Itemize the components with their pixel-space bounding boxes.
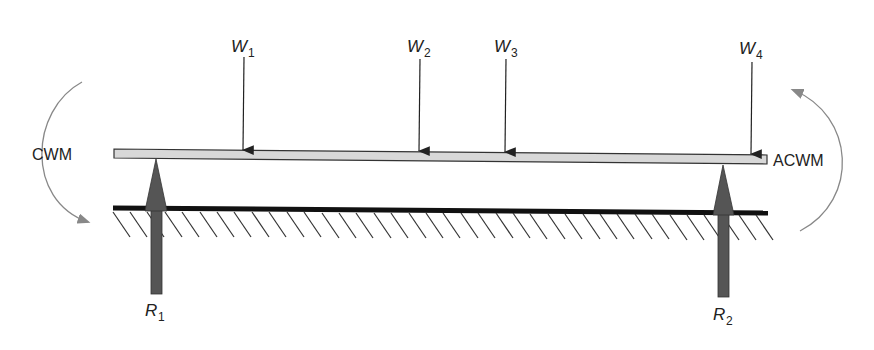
load-w1-label: W 1	[231, 37, 255, 60]
ground-support	[113, 208, 773, 240]
reaction-r1-label: R 1	[145, 301, 165, 324]
svg-text:W: W	[407, 37, 425, 56]
svg-text:R: R	[713, 305, 725, 324]
reaction-r1-arrow	[145, 159, 167, 294]
load-w4-label: W 4	[739, 39, 763, 62]
load-w2-label: W 2	[407, 37, 431, 60]
load-w3-arrow	[505, 59, 506, 152]
ground-hatching	[113, 212, 773, 240]
reaction-r2-arrow	[713, 165, 734, 297]
svg-text:2: 2	[726, 314, 733, 328]
beam	[114, 149, 767, 164]
svg-text:3: 3	[511, 46, 518, 60]
svg-text:2: 2	[424, 46, 431, 60]
acwm-label: ACWM	[773, 152, 824, 169]
svg-text:W: W	[739, 39, 757, 58]
cwm-label: CWM	[32, 146, 72, 163]
reaction-r2-label: R 2	[713, 305, 733, 328]
svg-text:1: 1	[248, 46, 255, 60]
load-w4-arrow	[751, 62, 752, 154]
beam-diagram: CWM ACWM W 1 W 2 W 3 W 4 R 1 R 2	[0, 0, 874, 350]
svg-text:W: W	[231, 37, 249, 56]
svg-text:4: 4	[756, 48, 763, 62]
svg-text:R: R	[145, 301, 157, 320]
svg-text:W: W	[494, 37, 512, 56]
load-w1-arrow	[243, 57, 244, 150]
svg-text:1: 1	[158, 310, 165, 324]
load-w2-arrow	[419, 59, 420, 151]
load-w3-label: W 3	[494, 37, 518, 60]
